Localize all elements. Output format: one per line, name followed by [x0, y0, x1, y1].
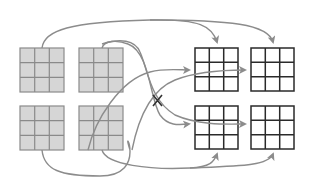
- arrow-br-to-bottom: [102, 150, 217, 168]
- output-grid-top-right: [251, 48, 294, 91]
- output-grid-bottom-left: [195, 106, 238, 149]
- input-grid-top-right: [79, 48, 123, 92]
- output-grid-bottom-right: [251, 106, 294, 149]
- arrow-tl-to-top: [42, 20, 217, 48]
- diagram-canvas: [0, 0, 313, 189]
- input-grid-top-left: [20, 48, 64, 92]
- output-grid-top-left: [195, 48, 238, 91]
- connection-arrows: [42, 20, 273, 176]
- input-grid-bottom-right: [79, 106, 123, 150]
- input-grid-bottom-left: [20, 106, 64, 150]
